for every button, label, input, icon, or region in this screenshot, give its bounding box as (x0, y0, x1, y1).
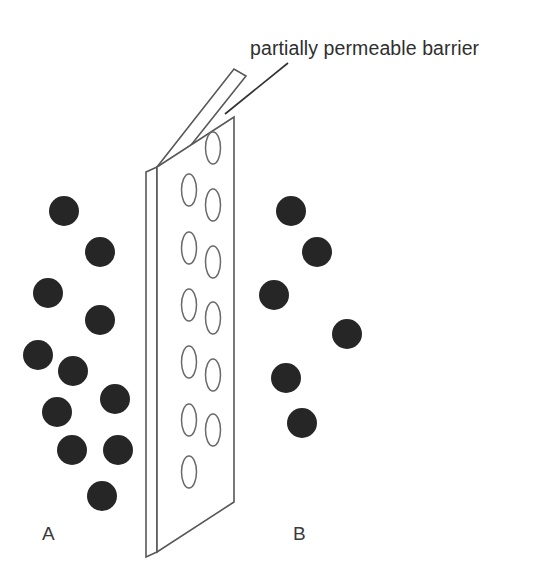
diffusion-diagram: partially permeable barrier A B (0, 0, 541, 588)
solute-particle-b (302, 237, 332, 267)
barrier-pore (206, 302, 221, 334)
solute-particle-a (58, 356, 88, 386)
barrier-left-edge-face (146, 167, 157, 557)
barrier-pore (206, 414, 221, 446)
compartment-label-a: A (42, 523, 55, 544)
partially-permeable-barrier (146, 69, 246, 557)
barrier-pore (182, 346, 197, 378)
solute-particle-a (85, 237, 115, 267)
barrier-pore (182, 456, 197, 488)
barrier-pore (182, 232, 197, 264)
barrier-caption-label: partially permeable barrier (250, 37, 480, 59)
barrier-pore (206, 132, 221, 164)
solute-particle-b (332, 319, 362, 349)
barrier-pore (206, 189, 221, 221)
particle-group-side-a (23, 196, 133, 511)
solute-particle-a (42, 397, 72, 427)
particle-group-side-b (259, 196, 362, 438)
solute-particle-b (276, 196, 306, 226)
barrier-pore (206, 359, 221, 391)
solute-particle-b (259, 280, 289, 310)
solute-particle-a (103, 435, 133, 465)
solute-particle-a (33, 278, 63, 308)
solute-particle-a (100, 384, 130, 414)
solute-particle-a (85, 305, 115, 335)
solute-particle-a (57, 435, 87, 465)
compartment-label-b: B (293, 523, 306, 544)
solute-particle-a (49, 196, 79, 226)
solute-particle-b (287, 408, 317, 438)
barrier-pore (182, 404, 197, 436)
solute-particle-a (23, 340, 53, 370)
barrier-pore (182, 289, 197, 321)
solute-particle-b (271, 363, 301, 393)
diagram-canvas: partially permeable barrier A B (0, 0, 541, 588)
solute-particle-a (87, 481, 117, 511)
barrier-pore (182, 174, 197, 206)
barrier-pore (206, 246, 221, 278)
